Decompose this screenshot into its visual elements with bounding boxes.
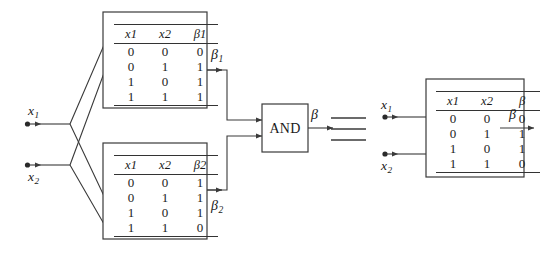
table-row: 1 0 1	[114, 205, 218, 220]
cell: 0	[114, 175, 148, 191]
cell: 0	[148, 205, 182, 220]
cell: 1	[470, 126, 504, 141]
table-row: 0 0 0	[114, 44, 218, 60]
col-header-x1: x1	[114, 25, 148, 44]
cell: 1	[470, 156, 504, 173]
cell: 0	[470, 111, 504, 127]
table-row: 0 0 1	[114, 175, 218, 191]
cell: 0	[436, 111, 470, 127]
cell: 1	[504, 141, 540, 156]
table-row: 0 0 0	[436, 111, 540, 127]
beta1-truth-table: x1 x2 β1 0 0 0 0 1 1 1 0 1 1 1 1	[114, 24, 218, 106]
cell: 1	[148, 190, 182, 205]
cell: 1	[114, 74, 148, 89]
beta2-output-label: β2	[211, 199, 223, 215]
table-row: 1 1 1	[114, 89, 218, 106]
table-header-row: x1 x2 β	[436, 92, 540, 111]
table-row: 1 1 0	[436, 156, 540, 173]
col-header-x2: x2	[148, 156, 182, 175]
beta-right-output-label: β	[509, 108, 516, 122]
cell: 1	[436, 141, 470, 156]
cell: 0	[114, 44, 148, 60]
beta1-output-label: β1	[211, 48, 223, 64]
cell: 0	[182, 220, 218, 237]
and-gate-label: AND	[265, 121, 305, 137]
beta-gate-output-label: β	[311, 108, 318, 122]
table-row: 0 1 1	[114, 190, 218, 205]
cell: 1	[504, 126, 540, 141]
cell: 1	[114, 89, 148, 106]
cell: 0	[436, 126, 470, 141]
col-header-x2: x2	[148, 25, 182, 44]
table-header-row: x1 x2 β2	[114, 156, 218, 175]
cell: 0	[470, 141, 504, 156]
equivalence-symbol-bars	[331, 118, 366, 140]
beta2-truth-table: x1 x2 β2 0 0 1 0 1 1 1 0 1 1 1 0	[114, 155, 218, 237]
cell: 0	[114, 59, 148, 74]
table-row: 1 0 1	[114, 74, 218, 89]
cell: 1	[148, 220, 182, 237]
table-header-row: x1 x2 β1	[114, 25, 218, 44]
cell: 0	[504, 156, 540, 173]
cell: 1	[182, 89, 218, 106]
col-header-x2: x2	[470, 92, 504, 111]
table-row: 0 1 1	[436, 126, 540, 141]
col-header-beta1: β1	[182, 25, 218, 44]
figure-root: x1 x2 x1 x2 β1 0 0 0 0 1 1 1 0	[0, 0, 543, 256]
cell: 1	[436, 156, 470, 173]
right-input-label-x1: x1	[381, 98, 392, 114]
cell: 1	[182, 175, 218, 191]
col-header-x1: x1	[114, 156, 148, 175]
right-input-label-x2: x2	[381, 159, 392, 175]
input-label-x1: x1	[28, 104, 39, 120]
cell: 0	[148, 175, 182, 191]
col-header-beta2: β2	[182, 156, 218, 175]
input-label-x2: x2	[28, 170, 39, 186]
cell: 1	[114, 205, 148, 220]
cell: 1	[114, 220, 148, 237]
table-row: 1 1 0	[114, 220, 218, 237]
beta-truth-table: x1 x2 β 0 0 0 0 1 1 1 0 1 1 1 0	[436, 91, 540, 173]
cell: 0	[114, 190, 148, 205]
cell: 1	[148, 59, 182, 74]
cell: 0	[148, 74, 182, 89]
col-header-x1: x1	[436, 92, 470, 111]
cell: 1	[148, 89, 182, 106]
cell: 0	[148, 44, 182, 60]
table-row: 0 1 1	[114, 59, 218, 74]
table-row: 1 0 1	[436, 141, 540, 156]
cell: 1	[182, 74, 218, 89]
